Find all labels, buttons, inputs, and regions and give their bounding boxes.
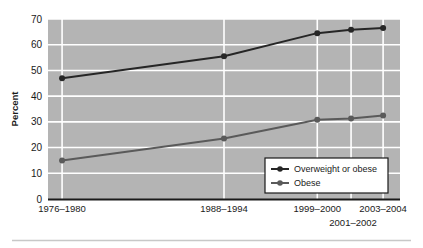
data-point-marker	[221, 53, 227, 59]
y-axis-tick-label: 70	[31, 14, 43, 25]
y-axis-tick-label: 60	[31, 39, 43, 50]
legend-marker-swatch	[277, 180, 283, 186]
x-axis-tick-label-offset: 2001–2002	[329, 217, 377, 228]
y-axis-tick-label: 30	[31, 116, 43, 127]
y-axis-title: Percent	[9, 91, 20, 127]
data-point-marker	[380, 112, 386, 118]
x-axis-tick-label: 2003–2004	[359, 203, 407, 214]
y-axis-tick-label: 50	[31, 65, 43, 76]
legend-box	[265, 158, 388, 193]
chart-legend[interactable]: Overweight or obeseObese	[265, 158, 388, 193]
y-axis-tick-label: 10	[31, 168, 43, 179]
data-point-marker	[59, 157, 65, 163]
legend-marker-swatch	[277, 166, 283, 172]
data-point-marker	[59, 75, 65, 81]
x-axis-tick-label: 1999–2000	[293, 203, 341, 214]
y-axis-tick-label: 20	[31, 142, 43, 153]
chart-figure: 010203040506070 Percent 1976–19801988–19…	[0, 0, 423, 248]
data-point-marker	[314, 30, 320, 36]
data-point-marker	[314, 117, 320, 123]
line-chart: 010203040506070 Percent 1976–19801988–19…	[0, 0, 423, 248]
x-axis-tick-label: 1988–1994	[200, 203, 248, 214]
x-axis-tick-label: 1976–1980	[38, 203, 86, 214]
data-point-marker	[348, 27, 354, 33]
data-point-marker	[348, 116, 354, 122]
data-point-marker	[380, 25, 386, 31]
legend-entry-label: Overweight or obese	[294, 164, 377, 174]
y-axis-tick-label: 40	[31, 91, 43, 102]
data-point-marker	[221, 136, 227, 142]
legend-entry-label: Obese	[294, 178, 321, 188]
